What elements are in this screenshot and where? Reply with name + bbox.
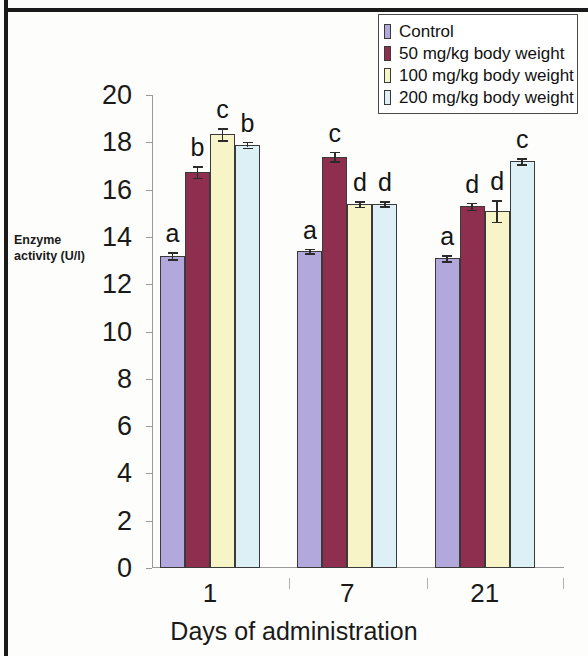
bar xyxy=(322,157,347,569)
bar xyxy=(435,258,460,568)
bar xyxy=(347,204,372,568)
y-axis-tick xyxy=(146,332,152,333)
error-bar-cap-upper xyxy=(492,200,502,202)
y-axis-tick xyxy=(146,521,152,522)
error-bar-cap-lower xyxy=(355,207,365,209)
y-axis-tick-label: 12 xyxy=(102,269,132,300)
y-axis-tick-label: 2 xyxy=(117,505,132,536)
bar xyxy=(210,134,235,568)
legend-item[interactable]: Control xyxy=(384,20,571,42)
bar xyxy=(460,206,485,568)
error-bar-cap-upper xyxy=(442,255,452,257)
error-bar-cap-upper xyxy=(193,166,203,168)
significance-label: b xyxy=(241,109,255,138)
y-axis-tick xyxy=(146,95,152,96)
x-axis-group-separator xyxy=(289,578,290,589)
error-bar xyxy=(222,128,224,140)
significance-label: d xyxy=(465,170,479,199)
error-bar-cap-upper xyxy=(168,252,178,254)
bar xyxy=(297,251,322,568)
significance-label: a xyxy=(166,219,180,248)
error-bar-cap-upper xyxy=(305,249,315,251)
error-bar-cap-lower xyxy=(218,140,228,142)
error-bar-cap-upper xyxy=(355,201,365,203)
y-axis-tick xyxy=(146,190,152,191)
legend-item-label: 200 mg/kg body weight xyxy=(399,89,574,106)
x-axis-end-tick xyxy=(563,578,564,589)
x-axis-group-separator xyxy=(427,578,428,589)
error-bar-cap-lower xyxy=(193,178,203,180)
legend-item-label: 100 mg/kg body weight xyxy=(399,67,574,84)
y-axis-tick-label: 16 xyxy=(102,174,132,205)
significance-label: b xyxy=(191,133,205,162)
error-bar xyxy=(496,200,498,221)
plot-area: abcbacddaddc xyxy=(152,95,564,568)
bar xyxy=(160,256,185,568)
error-bar-cap-lower xyxy=(467,210,477,212)
significance-label: a xyxy=(303,216,317,245)
y-axis-tick xyxy=(146,426,152,427)
y-axis-tick-label: 14 xyxy=(102,221,132,252)
y-axis-tick xyxy=(146,473,152,474)
y-axis-tick xyxy=(146,284,152,285)
error-bar-cap-lower xyxy=(243,148,253,150)
y-axis-tick xyxy=(146,142,152,143)
y-axis-tick-label: 10 xyxy=(102,316,132,347)
error-bar-cap-upper xyxy=(380,201,390,203)
legend-swatch-icon xyxy=(384,68,391,83)
error-bar-cap-upper xyxy=(218,128,228,130)
significance-label: a xyxy=(440,222,454,251)
error-bar-cap-lower xyxy=(305,253,315,255)
y-axis-tick-label: 20 xyxy=(102,80,132,111)
error-bar-cap-lower xyxy=(380,206,390,208)
significance-label: d xyxy=(490,167,504,196)
error-bar-cap-lower xyxy=(330,161,340,163)
y-axis-tick-label: 18 xyxy=(102,127,132,158)
error-bar-cap-upper xyxy=(243,142,253,144)
error-bar-cap-lower xyxy=(168,259,178,261)
figure-canvas: Enzyme activity (U/l) 02468101214161820 … xyxy=(0,0,588,656)
bar xyxy=(510,161,535,568)
x-axis-category-label: 1 xyxy=(203,578,217,609)
y-axis-line xyxy=(152,95,153,568)
legend-item[interactable]: 100 mg/kg body weight xyxy=(384,64,571,86)
error-bar-cap-upper xyxy=(467,203,477,205)
legend-item[interactable]: 50 mg/kg body weight xyxy=(384,42,571,64)
bar xyxy=(185,172,210,568)
x-axis-category-labels: 1721 xyxy=(152,578,564,612)
error-bar-cap-upper xyxy=(330,152,340,154)
y-axis-tick xyxy=(146,237,152,238)
significance-label: d xyxy=(378,168,392,197)
legend-swatch-icon xyxy=(384,90,391,105)
significance-label: d xyxy=(353,168,367,197)
y-axis-tick-label: 8 xyxy=(117,363,132,394)
page-border-top xyxy=(4,8,588,12)
legend-swatch-icon xyxy=(384,46,391,61)
bar xyxy=(485,211,510,568)
error-bar-cap-upper xyxy=(517,158,527,160)
y-axis-tick-label: 6 xyxy=(117,411,132,442)
chart-legend: Control50 mg/kg body weight100 mg/kg bod… xyxy=(378,14,578,114)
error-bar-cap-lower xyxy=(517,164,527,166)
error-bar xyxy=(197,166,199,178)
legend-item-label: 50 mg/kg body weight xyxy=(399,45,564,62)
y-axis-tick-label: 4 xyxy=(117,458,132,489)
x-axis-category-label: 7 xyxy=(340,578,354,609)
significance-label: c xyxy=(216,95,229,124)
y-axis-tick xyxy=(146,379,152,380)
legend-swatch-icon xyxy=(384,24,391,39)
error-bar-cap-lower xyxy=(442,261,452,263)
bar xyxy=(235,145,260,568)
legend-item-label: Control xyxy=(399,23,454,40)
y-axis-tick xyxy=(146,568,152,569)
significance-label: c xyxy=(329,119,342,148)
x-axis-category-label: 21 xyxy=(470,578,499,609)
x-axis-title: Days of administration xyxy=(0,617,588,646)
error-bar-cap-lower xyxy=(492,222,502,224)
legend-item[interactable]: 200 mg/kg body weight xyxy=(384,86,571,108)
y-axis-tick-label: 0 xyxy=(117,553,132,584)
significance-label: c xyxy=(516,125,529,154)
y-axis-tick-labels: 02468101214161820 xyxy=(0,95,146,568)
bar xyxy=(372,204,397,568)
